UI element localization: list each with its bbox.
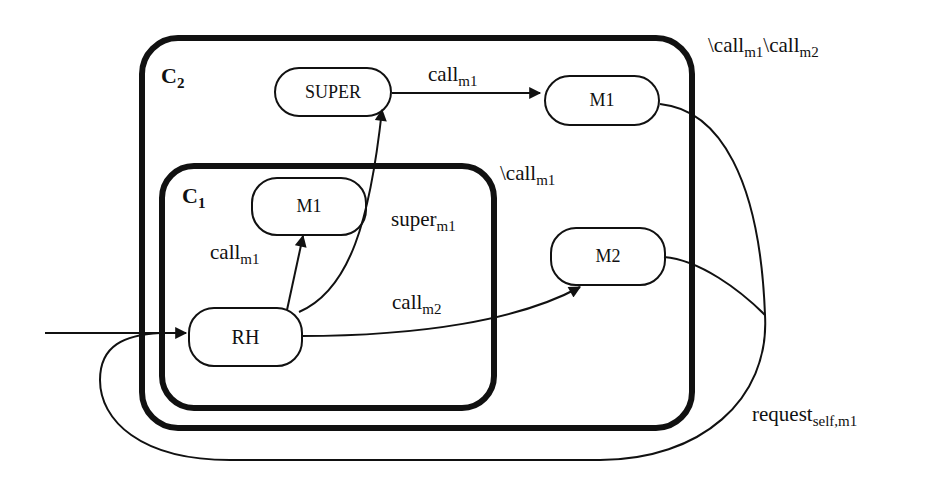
edge-rh-to-m1-inner (287, 236, 303, 310)
state-m1-outer[interactable]: M1 (544, 75, 660, 126)
state-m1-inner[interactable]: M1 (251, 177, 367, 236)
state-super[interactable]: SUPER (274, 67, 392, 117)
label-super-to-m1: callm1 (428, 64, 477, 85)
label-rh-to-super: superm1 (391, 209, 456, 230)
label-request-self: requestself,m1 (752, 404, 857, 425)
container-c2-annotation: \callm1\callm2 (708, 35, 819, 56)
label-rh-to-m2: callm2 (392, 292, 441, 313)
label-rh-to-m1: callm1 (210, 242, 259, 263)
edge-m2-to-join (664, 257, 765, 315)
state-rh[interactable]: RH (188, 307, 303, 367)
edge-m1-to-join (660, 104, 765, 315)
container-c2-label: C2 (161, 65, 184, 87)
container-c1-label: C1 (182, 185, 205, 207)
container-c1-annotation: \callm1 (500, 163, 555, 184)
state-m2[interactable]: M2 (550, 227, 666, 286)
